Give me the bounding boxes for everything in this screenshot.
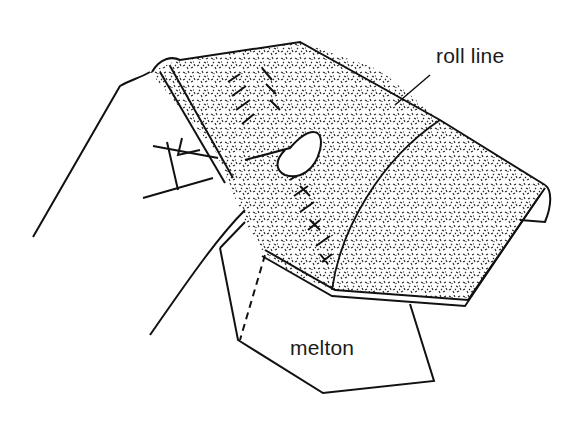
diagram-canvas: roll line melton — [0, 0, 582, 426]
collar-fabric — [150, 42, 550, 306]
roll-line-label: roll line — [436, 44, 504, 68]
melton-label: melton — [290, 336, 354, 360]
